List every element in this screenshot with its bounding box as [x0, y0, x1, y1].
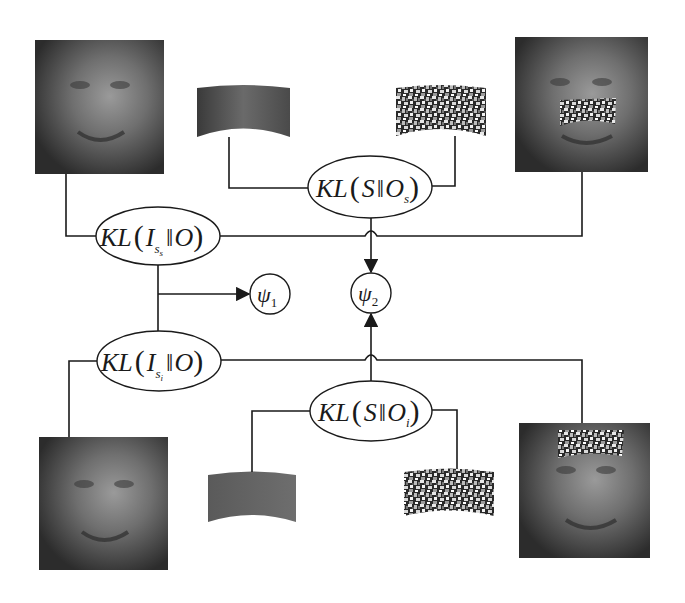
face-image-bottom-left	[39, 437, 168, 570]
patch-bottom-noise	[404, 469, 494, 517]
node-psi-2: ψ2	[351, 273, 391, 313]
patch-bottom-clean	[208, 472, 296, 523]
face-image-bottom-right-occluded	[519, 423, 650, 558]
svg-text:KL(S‖Os): KL(S‖Os)	[315, 170, 419, 206]
node-kl-iss-o: KL(Iss‖O)	[96, 207, 220, 265]
patch-top-clean	[197, 85, 290, 137]
node-psi-1: ψ1	[250, 274, 290, 314]
svg-text:KL(S‖Oi): KL(S‖Oi)	[317, 394, 420, 430]
patch-top-noise	[396, 85, 486, 136]
diagram-canvas: KL(S‖Os) KL(Iss‖O) KL(Isi‖O) KL(S‖Oi) ψ1…	[0, 0, 685, 603]
node-kl-s-os: KL(S‖Os)	[308, 156, 432, 218]
node-kl-s-oi: KL(S‖Oi)	[310, 381, 432, 441]
face-image-top-right-occluded	[515, 37, 648, 172]
node-kl-isi-o: KL(Isi‖O)	[97, 331, 221, 391]
face-image-top-left	[35, 40, 164, 174]
